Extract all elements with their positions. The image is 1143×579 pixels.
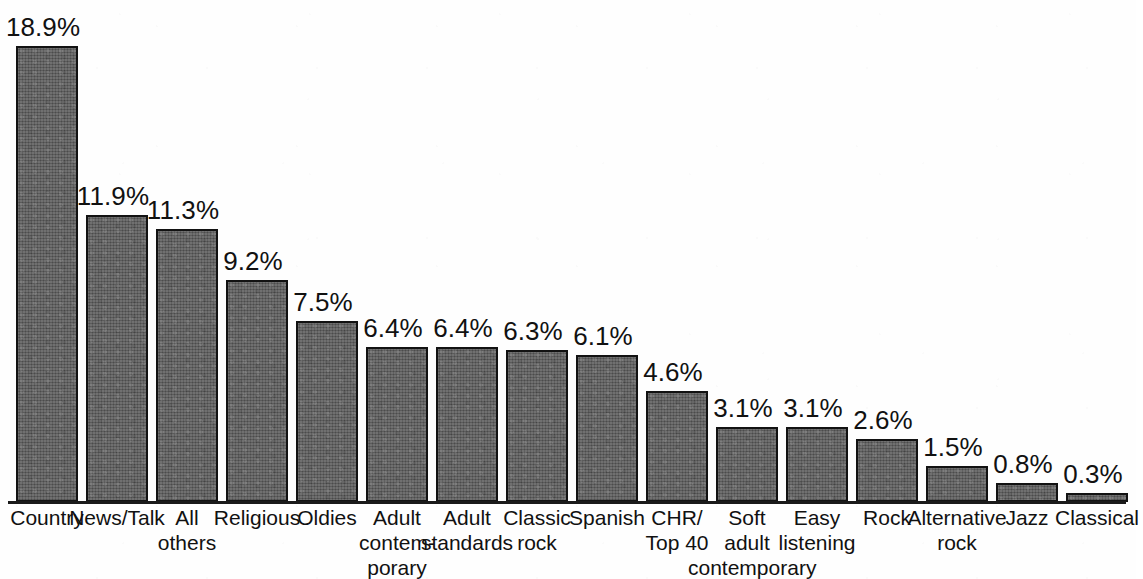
bar[interactable] bbox=[996, 483, 1058, 502]
category-label-line: rock bbox=[478, 530, 596, 555]
bar-slot: 9.2% bbox=[222, 0, 292, 502]
bar[interactable] bbox=[226, 280, 288, 502]
bar[interactable] bbox=[16, 46, 78, 502]
x-axis-line bbox=[8, 501, 1126, 504]
bar-slot: 0.8% bbox=[992, 0, 1062, 502]
bar-value-label: 11.3% bbox=[143, 197, 223, 223]
bar-value-label: 2.6% bbox=[843, 407, 923, 433]
bar-slot: 11.3% bbox=[152, 0, 222, 502]
bar-value-label: 0.8% bbox=[983, 451, 1063, 477]
bar[interactable] bbox=[156, 229, 218, 502]
bar[interactable] bbox=[856, 439, 918, 502]
plot-area: 18.9%11.9%11.3%9.2%7.5%6.4%6.4%6.3%6.1%4… bbox=[0, 0, 1136, 502]
bar-slot: 6.4% bbox=[362, 0, 432, 502]
bar-value-label: 4.6% bbox=[633, 359, 713, 385]
bar[interactable] bbox=[366, 347, 428, 502]
bar-value-label: 6.1% bbox=[563, 323, 643, 349]
bar-slot: 3.1% bbox=[712, 0, 782, 502]
bar-slot: 1.5% bbox=[922, 0, 992, 502]
bar-slot: 18.9% bbox=[12, 0, 82, 502]
category-label-line: others bbox=[128, 530, 246, 555]
bar-slot: 7.5% bbox=[292, 0, 362, 502]
bar-value-label: 11.9% bbox=[73, 183, 153, 209]
bar-slot: 6.4% bbox=[432, 0, 502, 502]
bar-value-label: 3.1% bbox=[773, 395, 853, 421]
category-label-line: porary bbox=[338, 555, 456, 579]
category-label: Classical bbox=[1038, 505, 1143, 530]
bar-value-label: 0.3% bbox=[1053, 461, 1133, 487]
bar-slot: 0.3% bbox=[1062, 0, 1132, 502]
bar-slot: 6.1% bbox=[572, 0, 642, 502]
bar-value-label: 18.9% bbox=[3, 14, 83, 40]
bar[interactable] bbox=[296, 321, 358, 502]
bar-slot: 2.6% bbox=[852, 0, 922, 502]
bar[interactable] bbox=[436, 347, 498, 502]
bar-slot: 6.3% bbox=[502, 0, 572, 502]
category-label-line: Classical bbox=[1038, 505, 1143, 530]
bar-value-label: 6.4% bbox=[423, 315, 503, 341]
bar-value-label: 3.1% bbox=[703, 395, 783, 421]
bar[interactable] bbox=[926, 466, 988, 502]
bar-value-label: 9.2% bbox=[213, 248, 293, 274]
category-label-line: contemporary bbox=[688, 555, 806, 579]
bar[interactable] bbox=[576, 355, 638, 502]
bar[interactable] bbox=[646, 391, 708, 502]
bar[interactable] bbox=[506, 350, 568, 502]
x-axis-category-labels: CountryNews/TalkAllothersReligiousOldies… bbox=[0, 505, 1136, 579]
category-label-line: rock bbox=[898, 530, 1016, 555]
bar-slot: 3.1% bbox=[782, 0, 852, 502]
bar-value-label: 6.4% bbox=[353, 315, 433, 341]
category-label-line: listening bbox=[758, 530, 876, 555]
bar[interactable] bbox=[716, 427, 778, 502]
bar-slot: 4.6% bbox=[642, 0, 712, 502]
bar[interactable] bbox=[86, 215, 148, 502]
bar-value-label: 1.5% bbox=[913, 434, 993, 460]
bar[interactable] bbox=[786, 427, 848, 502]
bar-value-label: 7.5% bbox=[283, 289, 363, 315]
bar-value-label: 6.3% bbox=[493, 318, 573, 344]
bar-slot: 11.9% bbox=[82, 0, 152, 502]
